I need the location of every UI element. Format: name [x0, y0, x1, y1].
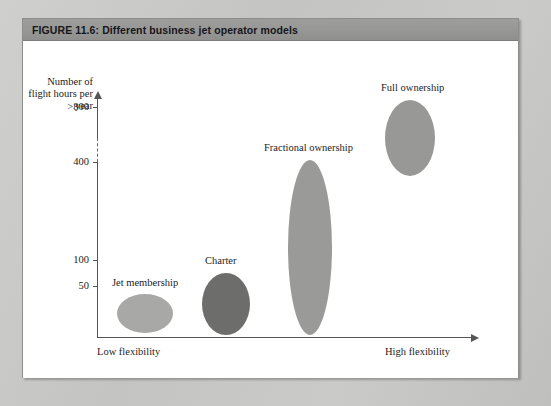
y-tick-mark-800	[93, 107, 98, 108]
bubble-charter	[202, 273, 250, 335]
y-tick-label-400: 400	[23, 156, 89, 167]
figure-title: FIGURE 11.6: Different business jet oper…	[32, 24, 298, 36]
y-tick-label-800: >800	[23, 101, 89, 112]
x-axis-line	[97, 337, 473, 338]
y-tick-mark-50	[93, 286, 98, 287]
y-tick-label-50: 50	[23, 280, 89, 291]
bubble-jet-membership	[117, 294, 173, 333]
figure-title-bar: FIGURE 11.6: Different business jet oper…	[23, 19, 518, 41]
figure-container: FIGURE 11.6: Different business jet oper…	[22, 18, 519, 378]
y-axis-arrow-icon	[94, 91, 102, 99]
x-axis-label-high-flexibility: High flexibility	[385, 346, 450, 357]
y-tick-mark-400	[93, 162, 98, 163]
y-tick-mark-100	[93, 260, 98, 261]
bubble-label-fractional-ownership: Fractional ownership	[264, 142, 353, 153]
bubble-fractional-ownership	[288, 160, 332, 335]
y-tick-label-100: 100	[23, 254, 89, 265]
bubble-full-ownership	[385, 100, 435, 176]
y-axis-break-dashed	[97, 138, 98, 162]
chart-plot-area: Number of flight hours per year >800 400…	[23, 41, 518, 378]
bubble-label-full-ownership: Full ownership	[381, 82, 444, 93]
x-axis-arrow-icon	[471, 334, 479, 342]
bubble-label-charter: Charter	[205, 255, 237, 266]
x-axis-label-low-flexibility: Low flexibility	[97, 346, 160, 357]
bubble-label-jet-membership: Jet membership	[112, 277, 178, 288]
y-axis-lower-segment	[97, 162, 98, 338]
y-axis-upper-segment	[97, 98, 98, 138]
